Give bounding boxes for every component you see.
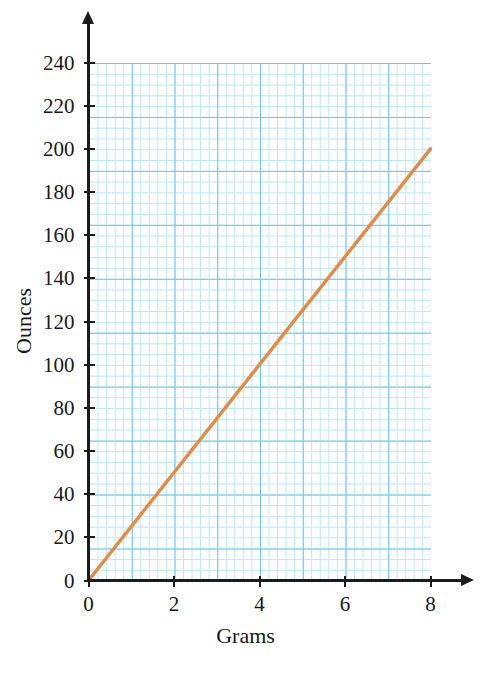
y-axis-tick [84, 493, 95, 495]
y-axis-tick [84, 277, 95, 279]
x-axis-tick-label: 8 [425, 594, 436, 615]
y-axis-tick [84, 321, 95, 323]
y-axis-tick-label: 60 [0, 441, 75, 462]
y-axis-tick-label: 220 [0, 95, 75, 116]
y-axis-tick [84, 62, 95, 64]
x-axis-title: Grams [0, 625, 491, 647]
y-axis-tick [84, 191, 95, 193]
x-axis-tick-label: 4 [254, 594, 265, 615]
y-axis-tick-label: 100 [0, 354, 75, 375]
y-axis-tick [84, 536, 95, 538]
y-axis-tick [84, 105, 95, 107]
y-axis-tick-label: 40 [0, 484, 75, 505]
y-axis-line [87, 24, 90, 582]
x-axis-tick-label: 6 [340, 594, 351, 615]
y-axis-tick [84, 407, 95, 409]
y-axis-tick [84, 450, 95, 452]
x-axis-tick [88, 576, 90, 587]
y-axis-tick-label: 80 [0, 397, 75, 418]
arrow-up-icon [82, 11, 94, 24]
y-axis-tick-label: 200 [0, 138, 75, 159]
y-axis-tick [84, 148, 95, 150]
y-axis-tick-label: 0 [0, 570, 75, 591]
x-axis-tick [344, 576, 346, 587]
y-axis-tick [84, 364, 95, 366]
x-axis-tick [430, 576, 432, 587]
y-axis-tick-label: 180 [0, 182, 75, 203]
x-axis-tick [173, 576, 175, 587]
chart-figure: 020406080100120140160180200220240 02468 … [0, 0, 491, 676]
x-axis-line [87, 579, 462, 582]
x-axis-tick-label: 2 [169, 594, 180, 615]
y-axis-tick-label: 20 [0, 527, 75, 548]
y-axis-title: Ounces [13, 271, 35, 371]
data-line-grams-to-ounces [89, 149, 431, 581]
x-axis-tick [259, 576, 261, 587]
arrow-right-icon [461, 574, 474, 586]
y-axis-tick-label: 240 [0, 52, 75, 73]
x-axis-tick-label: 0 [83, 594, 94, 615]
y-axis-tick [84, 234, 95, 236]
y-axis-tick-label: 160 [0, 225, 75, 246]
y-axis-tick-label: 140 [0, 268, 75, 289]
